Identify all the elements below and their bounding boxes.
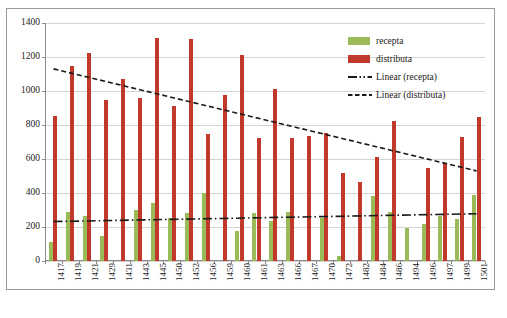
x-tick-label: 1496 <box>429 263 438 281</box>
legend-label-distributa: distributa <box>376 54 412 64</box>
x-tick-label: 1472 <box>345 263 354 281</box>
legend-swatch-distributa-icon <box>348 55 370 63</box>
x-tick-label: 1466 <box>294 263 303 281</box>
x-tick-label: 1470 <box>328 263 337 281</box>
y-tick-label: 200 <box>26 222 40 232</box>
x-tick-label: 1484 <box>379 263 388 281</box>
x-tick-label: 1461 <box>260 263 269 281</box>
legend-label-linear-distributa: Linear (distributa) <box>376 90 445 100</box>
legend-item-linear-distributa: Linear (distributa) <box>348 87 488 103</box>
x-tick-label: 1501 <box>480 263 489 281</box>
legend-item-recepta: recepta <box>348 33 488 49</box>
x-tick-label: 1463 <box>277 263 286 281</box>
trendline-recepta <box>53 214 476 222</box>
x-tick-label: 1459 <box>226 263 235 281</box>
y-tick-label: 600 <box>26 154 40 164</box>
chart-frame: 0200400600800100012001400 14171419142114… <box>6 8 495 290</box>
x-tick-label: 1417 <box>57 263 66 281</box>
x-tick-label: 1429 <box>108 263 117 281</box>
legend-dashed-line-icon <box>348 91 370 99</box>
x-tick-label: 1482 <box>362 263 371 281</box>
x-tick-label: 1460 <box>243 263 252 281</box>
x-tick-label: 1467 <box>311 263 320 281</box>
legend-item-linear-recepta: Linear (recepta) <box>348 69 488 85</box>
x-tick-label: 1452 <box>192 263 201 281</box>
x-tick-label: 1486 <box>395 263 404 281</box>
y-tick-label: 1400 <box>21 18 40 28</box>
legend-item-distributa: distributa <box>348 51 488 67</box>
y-tick-label: 1200 <box>21 52 40 62</box>
y-tick-label: 1000 <box>21 86 40 96</box>
x-tick-label: 1419 <box>74 263 83 281</box>
x-tick-label: 1499 <box>463 263 472 281</box>
legend-dash-dot-line-icon <box>348 73 370 81</box>
x-tick-label: 1450 <box>175 263 184 281</box>
legend-label-recepta: recepta <box>376 36 403 46</box>
x-tick-label: 1443 <box>142 263 151 281</box>
y-tick-label: 400 <box>26 188 40 198</box>
x-tick-label: 1421 <box>91 263 100 281</box>
x-tick-label: 1431 <box>125 263 134 281</box>
x-tick-label: 1497 <box>446 263 455 281</box>
legend-label-linear-recepta: Linear (recepta) <box>376 72 437 82</box>
x-tick-label: 1494 <box>412 263 421 281</box>
chart-legend: recepta distributa Linear (recepta) Line… <box>348 33 488 105</box>
x-tick-label: 1445 <box>159 263 168 281</box>
y-tick-label: 0 <box>35 256 40 266</box>
y-tick-label: 800 <box>26 120 40 130</box>
x-tick-label: 1456 <box>209 263 218 281</box>
x-axis-labels: 1417141914211429143114431445145014521456… <box>45 261 485 301</box>
legend-swatch-recepta-icon <box>348 37 370 45</box>
